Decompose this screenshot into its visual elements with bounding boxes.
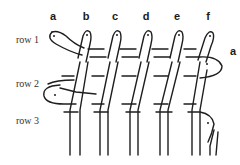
strand-label-f: f bbox=[206, 10, 210, 22]
strand-label-b: b bbox=[83, 10, 90, 22]
row-label-1: row 1 bbox=[16, 34, 39, 45]
strand-label-e: e bbox=[174, 10, 180, 22]
strand-label-a: a bbox=[50, 10, 56, 22]
strand-label-d: d bbox=[143, 10, 150, 22]
row-label-2: row 2 bbox=[16, 78, 39, 89]
row-label-3: row 3 bbox=[16, 115, 39, 126]
weaving-diagram: a b c d e f a row 1 row 2 row 3 bbox=[0, 0, 240, 165]
strand-label-c: c bbox=[112, 10, 118, 22]
side-strand-label-a: a bbox=[230, 45, 236, 57]
